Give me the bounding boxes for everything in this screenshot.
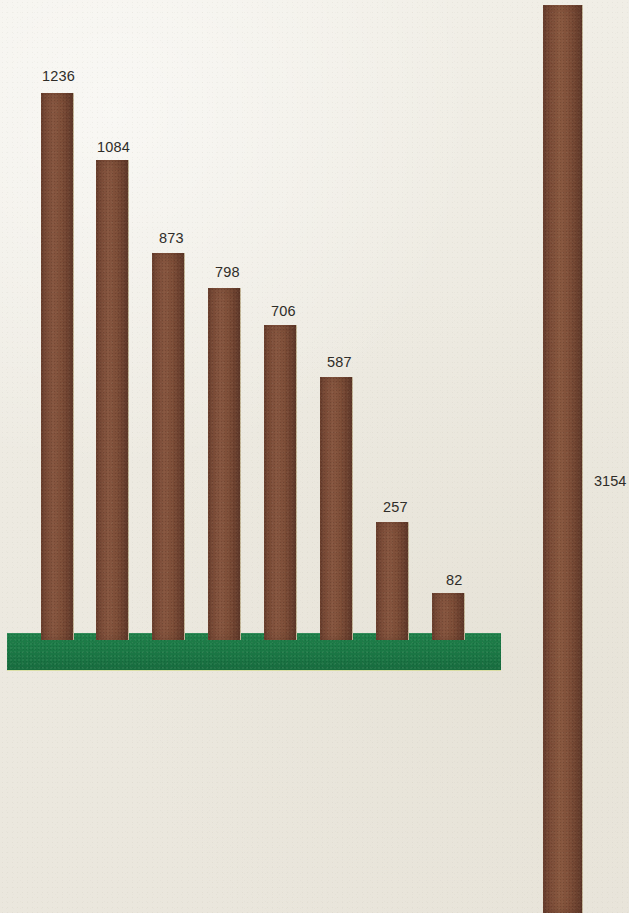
bar-6 <box>320 377 353 640</box>
baseline-bar <box>7 633 501 670</box>
bar-edge-highlight <box>240 288 242 640</box>
paper-grain-overlay <box>0 0 629 913</box>
bar-5 <box>264 325 297 640</box>
bar-4 <box>208 288 241 640</box>
bar-edge-highlight <box>73 93 75 640</box>
bar-edge-highlight <box>184 253 186 640</box>
bar-value-label-3: 873 <box>159 230 184 246</box>
bar-value-label-total: 3154 <box>594 473 626 489</box>
bar-edge-highlight <box>408 522 410 640</box>
bar-edge-highlight <box>582 5 584 913</box>
bar-value-label-8: 82 <box>446 572 463 588</box>
bar-7 <box>376 522 409 640</box>
bar-total <box>543 5 583 913</box>
bar-value-label-1: 1236 <box>42 68 75 84</box>
bar-value-label-4: 798 <box>215 264 240 280</box>
bar-1 <box>41 93 74 640</box>
bar-2 <box>96 160 129 640</box>
bar-edge-highlight <box>352 377 354 640</box>
bar-chart: 1236 1084 873 798 706 587 257 82 3154 <box>0 0 629 913</box>
bar-value-label-2: 1084 <box>97 139 130 155</box>
bar-edge-highlight <box>296 325 298 640</box>
bar-value-label-7: 257 <box>383 499 408 515</box>
bar-value-label-5: 706 <box>271 303 296 319</box>
bar-edge-highlight <box>464 593 466 640</box>
bar-3 <box>152 253 185 640</box>
bar-edge-highlight <box>128 160 130 640</box>
bar-8 <box>432 593 465 640</box>
bar-value-label-6: 587 <box>327 354 352 370</box>
